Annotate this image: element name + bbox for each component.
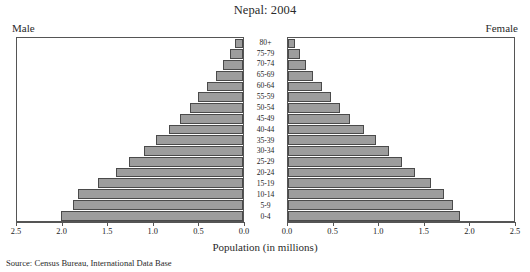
bar-row (17, 38, 243, 49)
female-bar (288, 39, 295, 49)
bar-row (17, 124, 243, 135)
axis-tick (287, 222, 288, 226)
male-bar (207, 82, 243, 92)
axis-tick (16, 222, 17, 226)
age-group-label: 35-39 (244, 135, 287, 146)
male-bar (190, 103, 243, 113)
bar-row (17, 92, 243, 103)
bar-row (288, 167, 514, 178)
axis-tick-label: 1.0 (373, 227, 383, 236)
bar-row (288, 38, 514, 49)
female-bar (288, 114, 350, 124)
male-bar (230, 49, 243, 59)
axis-tick (244, 222, 245, 226)
female-bar (288, 189, 444, 199)
age-group-label: 5-9 (244, 200, 287, 211)
bar-row (17, 113, 243, 124)
bar-row (288, 49, 514, 60)
axis-tick-label: 1.5 (102, 227, 112, 236)
bar-row (288, 70, 514, 81)
bar-row (288, 189, 514, 200)
bar-row (288, 81, 514, 92)
male-bar (61, 211, 243, 221)
female-bar (288, 103, 340, 113)
age-group-axis: 80+75-7970-7465-6960-6455-5950-5445-4940… (244, 37, 287, 222)
bar-row (17, 167, 243, 178)
age-group-label: 15-19 (244, 178, 287, 189)
male-bar (198, 92, 243, 102)
bar-row (17, 199, 243, 210)
axis-tick (469, 222, 470, 226)
axis-tick-label: 1.0 (148, 227, 158, 236)
male-bar (216, 71, 243, 81)
female-bar (288, 92, 331, 102)
bar-row (288, 60, 514, 71)
age-group-label: 10-14 (244, 189, 287, 200)
axis-tick (515, 222, 516, 226)
male-bar (169, 125, 243, 135)
bar-row (288, 113, 514, 124)
bar-row (17, 189, 243, 200)
bar-row (288, 156, 514, 167)
male-bar (235, 39, 243, 49)
age-group-label: 75-79 (244, 48, 287, 59)
axis-tick (153, 222, 154, 226)
age-group-label: 20-24 (244, 168, 287, 179)
female-bar (288, 71, 313, 81)
population-pyramid-chart: Nepal: 2004 Male Female 80+75-7970-7465-… (0, 0, 530, 272)
bar-row (17, 60, 243, 71)
bar-row (288, 210, 514, 221)
bar-row (17, 178, 243, 189)
male-bar (156, 135, 243, 145)
x-axis-title: Population (in millions) (0, 241, 530, 253)
female-bar (288, 200, 453, 210)
bar-row (17, 81, 243, 92)
female-bar-rows (288, 38, 514, 221)
bar-row (288, 124, 514, 135)
axis-tick (424, 222, 425, 226)
male-bar (98, 178, 243, 188)
bar-row (17, 49, 243, 60)
male-side-label: Male (12, 22, 35, 34)
female-bar (288, 49, 300, 59)
male-bar (144, 146, 243, 156)
source-note: Source: Census Bureau, International Dat… (6, 258, 172, 268)
bar-row (17, 146, 243, 157)
female-bar (288, 211, 460, 221)
male-plot-area (16, 37, 244, 222)
male-bar-rows (17, 38, 243, 221)
age-group-label: 65-69 (244, 70, 287, 81)
female-bar (288, 135, 376, 145)
male-bar (73, 200, 243, 210)
age-group-label: 50-54 (244, 102, 287, 113)
female-bar (288, 157, 402, 167)
male-x-axis-ticks: 2.52.01.51.00.50.0 (16, 222, 244, 238)
axis-tick (107, 222, 108, 226)
bar-row (17, 135, 243, 146)
bar-row (288, 103, 514, 114)
female-bar (288, 60, 306, 70)
bar-row (17, 70, 243, 81)
bar-row (17, 156, 243, 167)
axis-tick (378, 222, 379, 226)
bar-row (17, 103, 243, 114)
age-group-label: 0-4 (244, 211, 287, 222)
male-bar (116, 168, 243, 178)
axis-tick (333, 222, 334, 226)
age-group-label: 40-44 (244, 124, 287, 135)
female-bar (288, 125, 364, 135)
axis-tick-label: 2.0 (464, 227, 474, 236)
age-group-label: 30-34 (244, 146, 287, 157)
male-bar (78, 189, 243, 199)
age-group-label: 25-29 (244, 157, 287, 168)
axis-tick-label: 2.5 (11, 227, 21, 236)
axis-tick-label: 2.5 (510, 227, 520, 236)
age-group-label: 80+ (244, 37, 287, 48)
bar-row (288, 199, 514, 210)
bar-row (288, 92, 514, 103)
bar-row (288, 135, 514, 146)
female-bar (288, 178, 431, 188)
female-side-label: Female (486, 22, 518, 34)
age-group-label: 45-49 (244, 113, 287, 124)
female-bar (288, 168, 415, 178)
